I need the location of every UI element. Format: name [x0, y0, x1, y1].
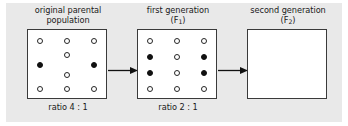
organism-dot-filled: [147, 54, 153, 60]
organism-dot-open: [174, 70, 180, 76]
panel-title-f2-line2: (F2): [281, 15, 296, 25]
organism-dot-open: [37, 38, 43, 44]
panel-title-f2: second generation (F2): [236, 6, 340, 25]
panel-title-parental-line1: original parental: [35, 5, 102, 15]
panel-parental-population: original parental population ratio 4 : 1: [16, 6, 120, 118]
f1-paren-close: ): [182, 15, 185, 25]
f2-subscript: 2: [288, 18, 292, 25]
f1-subscript: 1: [178, 18, 182, 25]
organism-dot-open: [174, 54, 180, 60]
panel-title-parental-line2: population: [46, 15, 89, 25]
ratio-label-f1: ratio 2 : 1: [126, 102, 230, 112]
f2-paren-close: ): [292, 15, 295, 25]
genetics-inheritance-figure: original parental population ratio 4 : 1…: [0, 0, 348, 126]
organism-dot-filled: [201, 54, 207, 60]
organism-dot-filled: [91, 62, 97, 68]
organism-dot-open: [147, 38, 153, 44]
organism-dot-open: [147, 86, 153, 92]
organism-dot-open: [91, 38, 97, 44]
panel-title-parental: original parental population: [16, 6, 120, 25]
panel-second-generation: second generation (F2): [236, 6, 340, 118]
organism-dot-open: [64, 38, 70, 44]
panel-title-f2-line1: second generation: [250, 5, 325, 15]
organism-dot-open: [91, 86, 97, 92]
organism-dot-filled: [201, 70, 207, 76]
panel-first-generation: first generation (F1) ratio 2 : 1: [126, 6, 230, 118]
organism-dot-filled: [147, 70, 153, 76]
population-box-parental: [27, 29, 107, 99]
organism-dot-filled: [37, 62, 43, 68]
organism-dot-open: [174, 86, 180, 92]
panel-title-f1: first generation (F1): [126, 6, 230, 25]
organism-dot-open: [201, 38, 207, 44]
organism-dot-open: [201, 86, 207, 92]
organism-dot-open: [174, 38, 180, 44]
panel-title-f1-line2: (F1): [171, 15, 186, 25]
population-box-f1: [137, 29, 217, 99]
population-box-f2-empty: [247, 29, 327, 99]
organism-dot-open: [37, 86, 43, 92]
organism-dot-open: [64, 86, 70, 92]
ratio-label-parental: ratio 4 : 1: [16, 102, 120, 112]
organism-dot-open: [64, 72, 70, 78]
panel-title-f1-line1: first generation: [147, 5, 209, 15]
organism-dot-open: [64, 52, 70, 58]
